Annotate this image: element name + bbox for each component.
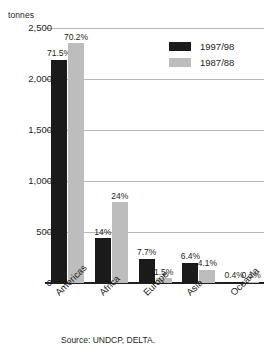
bar-group: 14%24% bbox=[95, 28, 128, 283]
legend-item-1997-98: 1997/98 bbox=[169, 38, 234, 54]
bar-value-label: 7.7% bbox=[131, 248, 163, 257]
y-axis-tick-label: 2,500 bbox=[12, 23, 52, 33]
bar bbox=[68, 43, 84, 283]
bar-chart: tonnes 05001,0001,5002,0002,50071.5%70.2… bbox=[0, 0, 272, 352]
legend-label-1997-98: 1997/98 bbox=[200, 41, 234, 52]
y-axis-tick-label: 1,000 bbox=[12, 176, 52, 186]
y-axis-tick-label: 2,000 bbox=[12, 74, 52, 84]
legend-swatch-icon-1987-88 bbox=[169, 58, 191, 67]
bar-value-label: 24% bbox=[104, 192, 136, 201]
legend-swatch-icon-1997-98 bbox=[169, 42, 191, 51]
bar bbox=[95, 238, 111, 283]
bar-value-label: 70.2% bbox=[60, 33, 92, 42]
source-note: Source: UNDCP, DELTA. bbox=[61, 335, 155, 345]
y-axis-unit-label: tonnes bbox=[8, 10, 34, 20]
y-axis-tick-label: 500 bbox=[12, 227, 52, 237]
legend-label-1987-88: 1987/88 bbox=[200, 57, 234, 68]
y-axis-tick-label: 0 bbox=[12, 278, 52, 288]
y-axis-tick-label: 1,500 bbox=[12, 125, 52, 135]
legend-item-1987-88: 1987/88 bbox=[169, 54, 234, 70]
bar bbox=[112, 202, 128, 283]
bar bbox=[51, 60, 67, 283]
chart-legend: 1997/98 1987/88 bbox=[169, 38, 234, 70]
bar-value-label: 4.1% bbox=[191, 259, 223, 268]
bar-group: 7.7%1.5% bbox=[139, 28, 172, 283]
bar-group: 71.5%70.2% bbox=[51, 28, 84, 283]
